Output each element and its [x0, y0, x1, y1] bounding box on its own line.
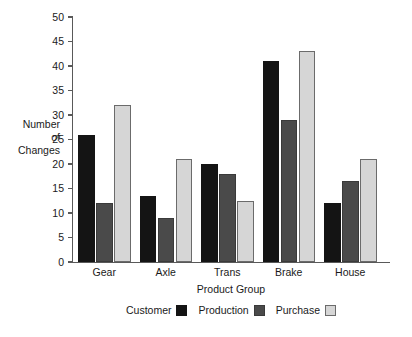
- y-axis-tick-label: 15: [40, 183, 64, 194]
- bar-production-trans: [219, 174, 236, 262]
- y-axis-tick-label: 50: [40, 12, 64, 23]
- bar-group: [140, 17, 194, 262]
- y-axis-tick-label: 5: [40, 232, 64, 243]
- plot-area: [73, 17, 390, 262]
- x-axis-category-label: Axle: [136, 266, 196, 278]
- bar-customer-gear: [78, 135, 95, 262]
- x-axis-title: Product Group: [72, 283, 390, 295]
- y-axis-tick-label: 45: [40, 36, 64, 47]
- legend-item-purchase: Purchase: [276, 304, 336, 316]
- bar-customer-trans: [201, 164, 218, 262]
- bar-group: [78, 17, 132, 262]
- bar-production-brake: [281, 120, 298, 262]
- bar-group: [263, 17, 317, 262]
- x-axis-category-label: Trans: [197, 266, 257, 278]
- bar-customer-house: [324, 203, 341, 262]
- legend-item-customer: Customer: [126, 304, 188, 316]
- y-axis-tick-label: 25: [40, 134, 64, 145]
- bar-production-house: [342, 181, 359, 262]
- bar-group: [324, 17, 378, 262]
- bar-customer-axle: [140, 196, 157, 262]
- bar-purchase-gear: [114, 105, 131, 262]
- x-axis-category-label: Gear: [74, 266, 134, 278]
- chart-legend: CustomerProductionPurchase: [72, 304, 390, 316]
- x-axis-line: [72, 262, 390, 263]
- y-axis-tick-label: 0: [40, 257, 64, 268]
- legend-swatch: [325, 305, 336, 316]
- y-axis-tick-label: 30: [40, 110, 64, 121]
- x-axis-category-label: House: [320, 266, 380, 278]
- y-axis-tick-label: 20: [40, 159, 64, 170]
- legend-item-production: Production: [198, 304, 264, 316]
- bar-group: [201, 17, 255, 262]
- legend-swatch: [176, 305, 187, 316]
- legend-swatch: [254, 305, 265, 316]
- y-axis-title-line-3: Changes: [4, 144, 60, 157]
- bar-production-gear: [96, 203, 113, 262]
- legend-label: Customer: [126, 304, 172, 316]
- y-axis-tick-label: 10: [40, 208, 64, 219]
- legend-label: Purchase: [276, 304, 320, 316]
- bar-purchase-trans: [237, 201, 254, 262]
- bar-purchase-house: [360, 159, 377, 262]
- legend-label: Production: [198, 304, 248, 316]
- bar-customer-brake: [263, 61, 280, 262]
- y-axis-tick-label: 40: [40, 61, 64, 72]
- bar-chart: Number of Changes 05101520253035404550 G…: [0, 0, 412, 337]
- y-axis-tick-label: 35: [40, 85, 64, 96]
- bar-purchase-axle: [176, 159, 193, 262]
- x-axis-category-label: Brake: [259, 266, 319, 278]
- bar-purchase-brake: [299, 51, 316, 262]
- bar-production-axle: [158, 218, 175, 262]
